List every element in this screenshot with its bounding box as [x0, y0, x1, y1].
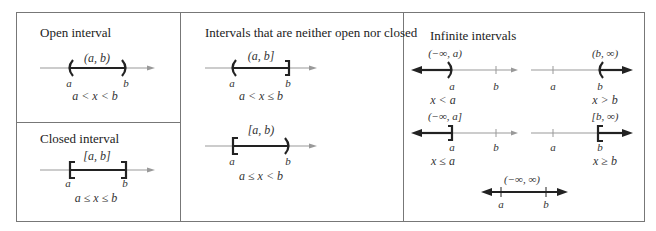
infinite-5-label-a: a	[498, 198, 504, 210]
infinite-5-number-line	[0, 0, 656, 231]
infinite-5-label-b: b	[543, 198, 549, 210]
